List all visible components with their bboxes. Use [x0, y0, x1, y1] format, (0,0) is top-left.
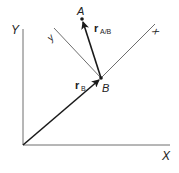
- vector-r-b: [23, 80, 99, 145]
- vector-r-b-label: r B: [75, 79, 86, 92]
- point-b-label: B: [102, 82, 109, 94]
- fixed-y-label: Y: [11, 23, 20, 37]
- relative-motion-diagram: X Y x y A B r B r A/B: [0, 0, 179, 173]
- moving-y-label: y: [44, 31, 57, 44]
- point-b-dot: [99, 76, 103, 80]
- point-a-label: A: [76, 5, 84, 17]
- fixed-x-label: X: [161, 149, 171, 163]
- vector-r-a-b: [83, 22, 101, 78]
- vector-r-b-symbol: r: [75, 79, 80, 91]
- moving-y-axis: [54, 28, 101, 78]
- point-a-dot: [80, 17, 84, 21]
- vector-r-b-subscript: B: [81, 85, 86, 92]
- vector-r-a-b-symbol: r: [94, 22, 99, 34]
- vector-r-a-b-label: r A/B: [94, 22, 112, 35]
- vector-r-a-b-subscript: A/B: [100, 28, 112, 35]
